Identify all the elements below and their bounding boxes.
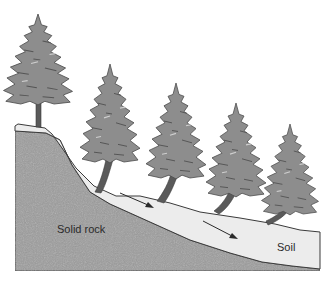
tree-3 <box>146 83 206 179</box>
solid-rock-label: Solid rock <box>57 223 105 235</box>
soil-label: Soil <box>277 241 295 253</box>
tree-1 <box>4 14 73 105</box>
tree-2 <box>80 64 140 163</box>
tree-4 <box>206 103 266 197</box>
tree-5 <box>262 124 319 215</box>
